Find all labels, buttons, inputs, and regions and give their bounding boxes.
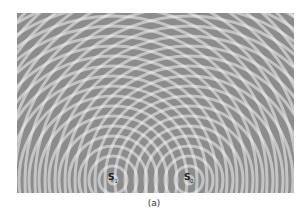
source-label-s1: S1 [108,173,118,184]
source-label-s2: S2 [184,173,194,184]
interference-figure: S1 S2 [17,13,294,193]
figure-caption: (a) [0,198,308,208]
wave-pattern [17,13,294,193]
